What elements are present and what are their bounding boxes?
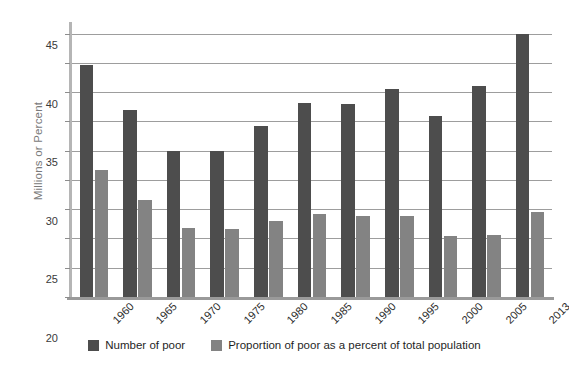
y-tick-mark: 0	[65, 297, 70, 298]
y-tick-mark: 5	[65, 268, 70, 269]
bar	[167, 151, 181, 297]
x-axis-label: 2013	[546, 300, 569, 326]
x-axis-label: 1985	[328, 300, 354, 326]
bar	[444, 236, 458, 297]
legend-swatch	[88, 340, 99, 351]
x-axis-label: 1990	[372, 300, 398, 326]
bar-group	[72, 22, 116, 297]
bar	[313, 214, 327, 297]
legend-label: Number of poor	[105, 339, 185, 351]
bar	[182, 228, 196, 297]
x-axis-labels: 1960196519701975198019851990199520002005…	[69, 300, 552, 340]
x-axis-label: 1975	[241, 300, 267, 326]
bar	[385, 89, 399, 297]
y-tick-mark: 40	[65, 63, 70, 64]
bar-group	[116, 22, 160, 297]
legend-label: Proportion of poor as a percent of total…	[228, 339, 481, 351]
bar	[531, 212, 545, 297]
y-tick-mark: 15	[65, 209, 70, 210]
bar-group	[465, 22, 509, 297]
y-tick-label: 25	[46, 273, 58, 285]
bar-group	[159, 22, 203, 297]
y-tick-mark: 30	[65, 121, 70, 122]
bar	[487, 235, 501, 297]
y-axis-title: Millions or Percent	[32, 71, 44, 231]
x-axis-label: 1980	[285, 300, 311, 326]
chart-legend: Number of poorProportion of poor as a pe…	[0, 339, 569, 351]
bar	[472, 86, 486, 297]
bar-group	[377, 22, 421, 297]
bar	[95, 170, 109, 297]
bar	[400, 216, 414, 297]
bar	[341, 104, 355, 297]
legend-swatch	[211, 340, 222, 351]
y-tick-label: 35	[46, 156, 58, 168]
bar	[80, 65, 94, 297]
y-tick-mark: 10	[65, 238, 70, 239]
bar	[516, 34, 530, 297]
x-axis-label: 2000	[459, 300, 485, 326]
y-tick-mark: 45	[65, 34, 70, 35]
y-tick-mark: 20	[65, 180, 70, 181]
bar	[254, 126, 268, 297]
bar-group	[290, 22, 334, 297]
y-tick-mark: 25	[65, 151, 70, 152]
x-axis-label: 1995	[415, 300, 441, 326]
legend-item[interactable]: Proportion of poor as a percent of total…	[211, 339, 481, 351]
bar-group	[334, 22, 378, 297]
bar-group	[247, 22, 291, 297]
y-tick-label: 45	[46, 39, 58, 51]
bar	[123, 110, 137, 297]
y-tick-mark: 35	[65, 92, 70, 93]
y-tick-label: 30	[46, 215, 58, 227]
y-tick-label: 40	[46, 98, 58, 110]
bar	[269, 221, 283, 297]
x-axis-label: 2005	[503, 300, 529, 326]
plot-area: 051015202530354045	[69, 22, 552, 297]
bar	[356, 216, 370, 297]
x-axis-label: 1965	[154, 300, 180, 326]
legend-item[interactable]: Number of poor	[88, 339, 185, 351]
bar-group	[421, 22, 465, 297]
x-axis-label: 1970	[197, 300, 223, 326]
bar-group	[508, 22, 552, 297]
bar	[429, 116, 443, 297]
bar	[210, 151, 224, 297]
x-axis-label: 1960	[110, 300, 136, 326]
bar	[298, 103, 312, 297]
bars-layer	[72, 22, 552, 297]
bar	[138, 200, 152, 297]
bar	[225, 229, 239, 297]
bar-chart: Millions or Percent 051015202530354045 1…	[0, 0, 569, 370]
bar-group	[203, 22, 247, 297]
